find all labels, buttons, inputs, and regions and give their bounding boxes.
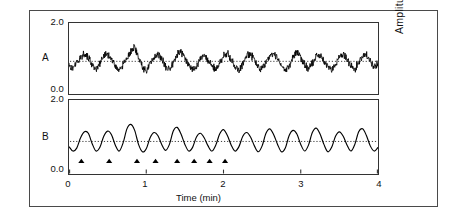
x-tick-label-1: 1 (137, 178, 153, 189)
event-marker-triangle-7 (222, 159, 228, 163)
raw-signal-path (69, 44, 378, 73)
event-marker-triangle-3 (152, 159, 158, 163)
y-axis-title-text: Amplitude (mV) (393, 0, 405, 34)
event-marker-triangle-6 (207, 159, 213, 163)
event-marker-triangle-1 (106, 159, 112, 163)
panel-a-plot-area (68, 22, 379, 95)
panel-b-y-tick-top: 2.0 (36, 93, 64, 104)
figure-container: A 2.0 0.0 B 2.0 0.0 0 1 2 3 4 Time (min)… (0, 0, 476, 224)
panel-b-trace-svg (69, 100, 378, 174)
x-axis-title: Time (min) (176, 192, 221, 203)
panel-b-plot-area (68, 99, 379, 175)
filtered-signal-path (69, 124, 378, 152)
x-tick-label-0: 0 (60, 178, 76, 189)
panel-b-label: B (42, 131, 49, 142)
panel-a-y-tick-top: 2.0 (36, 16, 64, 27)
panel-a-trace-svg (69, 23, 378, 94)
y-axis-title: Amplitude (mV) (393, 0, 405, 34)
x-tick-label-2: 2 (215, 178, 231, 189)
panel-b-y-tick-bottom: 0.0 (36, 163, 64, 174)
event-marker-triangle-4 (174, 159, 180, 163)
x-tick-label-3: 3 (293, 178, 309, 189)
panel-a-label: A (42, 52, 49, 63)
event-marker-triangle-5 (191, 159, 197, 163)
event-marker-triangle-2 (134, 159, 140, 163)
x-tick-label-4: 4 (371, 178, 387, 189)
event-marker-triangle-0 (78, 159, 84, 163)
